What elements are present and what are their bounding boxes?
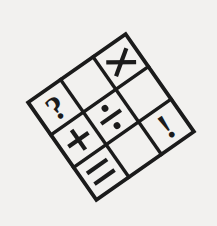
cell-symbol-multiplication-sign: ×	[106, 48, 136, 76]
rotated-grid-group: ? × + ÷	[28, 34, 194, 200]
division-dot-lower	[112, 121, 121, 130]
cell-symbol-exclamation-mark: !	[150, 107, 183, 147]
symbol-grid-figure: ? × + ÷	[0, 0, 217, 226]
equals-stroke-upper	[87, 159, 107, 173]
division-stroke-bar	[101, 110, 121, 124]
cell-symbol-equals-sign: =	[87, 159, 115, 184]
cell-symbol-division-sign: ÷	[93, 99, 129, 136]
division-dot-upper	[100, 104, 109, 113]
equals-stroke-lower	[95, 170, 115, 184]
plus-stroke-vertical	[72, 130, 86, 150]
cell-symbol-plus-sign: +	[62, 123, 96, 157]
figure-canvas: ? × + ÷	[0, 0, 217, 226]
